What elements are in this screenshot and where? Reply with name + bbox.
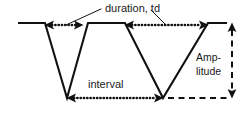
interval-label: interval (88, 78, 123, 90)
duration-arrow-left (45, 21, 84, 30)
duration-label: duration, td (105, 2, 160, 14)
interval-arrow (67, 94, 164, 103)
diagram-canvas: duration, td interval Amp- litude (0, 0, 247, 115)
pulse-timing-diagram: duration, td interval Amp- litude (0, 0, 247, 115)
arrow-head-down (228, 89, 237, 99)
amplitude-arrow (228, 23, 237, 99)
amplitude-label-line2: litude (196, 65, 221, 77)
amplitude-label-line1: Amp- (196, 51, 222, 63)
